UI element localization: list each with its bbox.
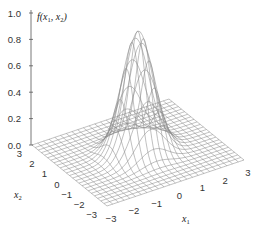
x2-tick-label: −2	[74, 199, 85, 210]
wireframe-line	[73, 43, 210, 178]
x2-tick-label: −3	[86, 209, 97, 220]
z-tick-label: 0.2	[8, 113, 21, 124]
z-axis-title: f(x1, x2)	[37, 11, 68, 23]
z-axis-ticks: 0.00.20.40.60.81.0	[8, 8, 33, 151]
wireframe-line	[41, 107, 178, 153]
z-tick-label: 0.6	[8, 60, 21, 71]
x1-tick-label: −3	[106, 213, 117, 224]
z-axis: 0.00.20.40.60.81.0 f(x1, x2)	[8, 8, 68, 151]
z-tick-label: 0.8	[8, 34, 21, 45]
x2-tick-label: 0	[54, 179, 59, 190]
x1-tick-label: −1	[151, 198, 162, 209]
z-tick-label: 0.4	[8, 87, 21, 98]
surface-plot: 0.00.20.40.60.81.0 f(x1, x2) 3210−1−2−3 …	[0, 0, 257, 235]
z-tick-label: 1.0	[8, 8, 21, 19]
x2-tick-label: 1	[42, 168, 47, 179]
wireframe-surface	[32, 31, 244, 206]
wireframe-line	[66, 38, 203, 173]
wireframe-line	[60, 86, 197, 167]
x2-tick-label: 2	[29, 158, 34, 169]
x1-tick-label: 2	[223, 175, 228, 186]
x1-tick-label: −2	[128, 205, 139, 216]
x1-tick-label: 1	[200, 182, 205, 193]
x2-tick-label: 3	[17, 148, 22, 159]
wireframe-line	[32, 99, 169, 145]
x1-axis-title: x1	[181, 213, 190, 225]
x2-axis-title: x2	[13, 189, 22, 201]
x1-tick-label: 0	[177, 190, 182, 201]
x2-tick-label: −1	[61, 189, 72, 200]
wireframe-line	[51, 114, 188, 160]
wireframe-line	[70, 31, 207, 175]
wireframe-line	[101, 31, 176, 183]
x1-tick-label: 3	[245, 167, 250, 178]
